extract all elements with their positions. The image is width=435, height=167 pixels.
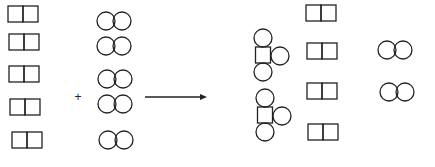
square-pair-molecule	[306, 5, 336, 21]
arrow-head-icon	[200, 94, 207, 100]
circle-atom	[97, 37, 115, 55]
circle-atom	[114, 70, 132, 88]
square-atom	[10, 99, 25, 115]
square-atom	[25, 99, 40, 115]
square-atom	[322, 83, 337, 99]
circle-atom	[99, 131, 117, 149]
square-pair-molecule	[307, 83, 337, 99]
circle-atom	[113, 37, 131, 55]
leftover-circle-molecules	[378, 41, 414, 101]
circle-atom	[273, 107, 291, 125]
circle-atom	[256, 123, 274, 141]
square-atom	[323, 124, 338, 140]
circle-atom	[396, 83, 414, 101]
circle-pair-molecule	[99, 131, 133, 149]
square-atom	[12, 132, 27, 148]
circle-atom	[254, 63, 272, 81]
square-pair-molecule	[8, 6, 38, 22]
reaction-diagram: +	[0, 0, 435, 167]
square-atom	[9, 34, 24, 50]
square-atom	[307, 83, 322, 99]
circle-pair-molecule	[98, 95, 132, 113]
circle-atom	[378, 41, 396, 59]
circle-atom	[380, 83, 398, 101]
reaction-arrow	[145, 94, 207, 100]
reactant-square-molecules	[8, 6, 42, 148]
circle-atom	[256, 89, 274, 107]
square-pair-molecule	[307, 43, 337, 59]
circle-atom	[113, 12, 131, 30]
square-atom	[256, 47, 271, 63]
circle-atom	[115, 131, 133, 149]
reactant-circle-molecules	[97, 12, 133, 149]
circle-pair-molecule	[378, 41, 412, 59]
circle-atom	[271, 47, 289, 65]
square-atom	[306, 5, 321, 21]
square-atom	[308, 124, 323, 140]
circle-pair-molecule	[98, 70, 132, 88]
circle-pair-molecule	[380, 83, 414, 101]
square-atom	[321, 5, 336, 21]
circle-atom	[394, 41, 412, 59]
product-compound-molecules	[254, 29, 291, 141]
square-atom	[9, 66, 24, 82]
square-pair-molecule	[9, 34, 39, 50]
circle-atom	[98, 70, 116, 88]
square-atom	[24, 34, 39, 50]
circle-atom	[254, 29, 272, 47]
circle-pair-molecule	[97, 12, 131, 30]
compound-molecule	[256, 89, 291, 141]
leftover-square-molecules	[306, 5, 338, 140]
square-pair-molecule	[10, 99, 40, 115]
circle-atom	[98, 95, 116, 113]
square-atom	[307, 43, 322, 59]
square-pair-molecule	[12, 132, 42, 148]
square-pair-molecule	[308, 124, 338, 140]
square-pair-molecule	[9, 66, 39, 82]
square-atom	[8, 6, 23, 22]
circle-atom	[114, 95, 132, 113]
compound-molecule	[254, 29, 289, 81]
square-atom	[27, 132, 42, 148]
circle-pair-molecule	[97, 37, 131, 55]
square-atom	[322, 43, 337, 59]
square-atom	[258, 107, 273, 123]
square-atom	[23, 6, 38, 22]
circle-atom	[97, 12, 115, 30]
plus-sign: +	[74, 90, 81, 104]
square-atom	[24, 66, 39, 82]
